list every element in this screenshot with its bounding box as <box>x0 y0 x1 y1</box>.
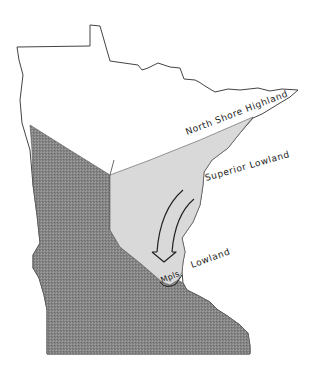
minnesota-map: North Shore Highland Superior Lowland Mp… <box>0 0 316 374</box>
label-lowland: Lowland <box>189 246 231 270</box>
